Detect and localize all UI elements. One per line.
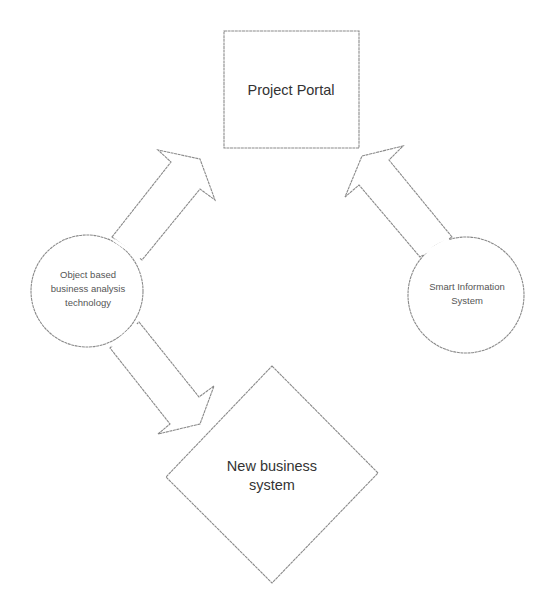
object-based-label-line1: Object based — [60, 269, 116, 280]
project-portal-label: Project Portal — [247, 82, 334, 98]
arrow-smart-to-portal — [345, 146, 452, 257]
smart-info-label-line2: System — [451, 295, 483, 306]
object-based-label-line2: business analysis — [51, 283, 126, 294]
arrow-object-to-new-business — [110, 322, 214, 434]
arrow-object-to-portal — [112, 150, 215, 260]
diagram-canvas: Project Portal Object based business ana… — [0, 0, 552, 611]
smart-info-label-line1: Smart Information — [429, 281, 505, 292]
new-business-label-line2: system — [249, 477, 295, 493]
object-based-label-line3: technology — [65, 297, 111, 308]
diagram-svg: Project Portal Object based business ana… — [0, 0, 552, 611]
new-business-label-line1: New business — [227, 458, 317, 474]
